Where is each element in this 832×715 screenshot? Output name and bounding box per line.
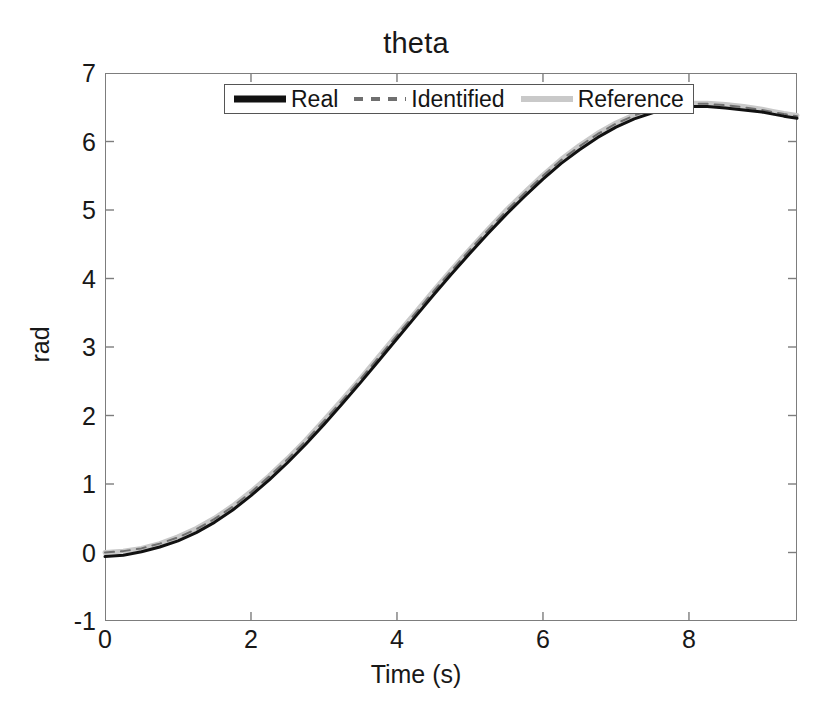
legend-item-label: Reference xyxy=(573,88,684,111)
y-tick-label: 5 xyxy=(6,198,96,223)
legend-item-label: Identified xyxy=(406,88,504,111)
plot-area xyxy=(105,73,797,621)
x-tick-label: 0 xyxy=(75,626,135,652)
series-line xyxy=(105,104,797,553)
y-tick-label: 7 xyxy=(6,61,96,86)
legend-item-identified[interactable]: Identified xyxy=(354,88,504,111)
legend-item-real[interactable]: Real xyxy=(234,88,338,111)
x-tick-label: 4 xyxy=(367,626,427,652)
y-tick-label: 2 xyxy=(6,403,96,428)
x-tick-label: 2 xyxy=(221,626,281,652)
y-tick-label: 1 xyxy=(6,472,96,497)
thick-light-gray-line-icon xyxy=(521,92,573,106)
series-line xyxy=(105,107,797,557)
figure-canvas: theta rad Time (s) -101234567 02468 Real… xyxy=(0,0,832,715)
dashed-gray-line-icon xyxy=(354,92,406,106)
x-tick-label: 6 xyxy=(513,626,573,652)
legend[interactable]: RealIdentifiedReference xyxy=(224,84,694,114)
x-axis-label: Time (s) xyxy=(0,660,832,689)
y-tick-label: 0 xyxy=(6,540,96,565)
page-title: theta xyxy=(0,26,832,60)
x-tick-label: 8 xyxy=(659,626,719,652)
y-tick-label: 3 xyxy=(6,335,96,360)
y-tick-label: 4 xyxy=(6,266,96,291)
thick-solid-black-line-icon xyxy=(234,92,286,106)
x-axis-tick-labels: 02468 xyxy=(105,626,797,660)
legend-item-label: Real xyxy=(286,88,338,111)
y-tick-label: 6 xyxy=(6,129,96,154)
legend-item-reference[interactable]: Reference xyxy=(521,88,684,111)
data-series-layer xyxy=(105,73,797,621)
y-axis-tick-labels: -101234567 xyxy=(0,73,96,621)
series-line xyxy=(105,103,797,552)
